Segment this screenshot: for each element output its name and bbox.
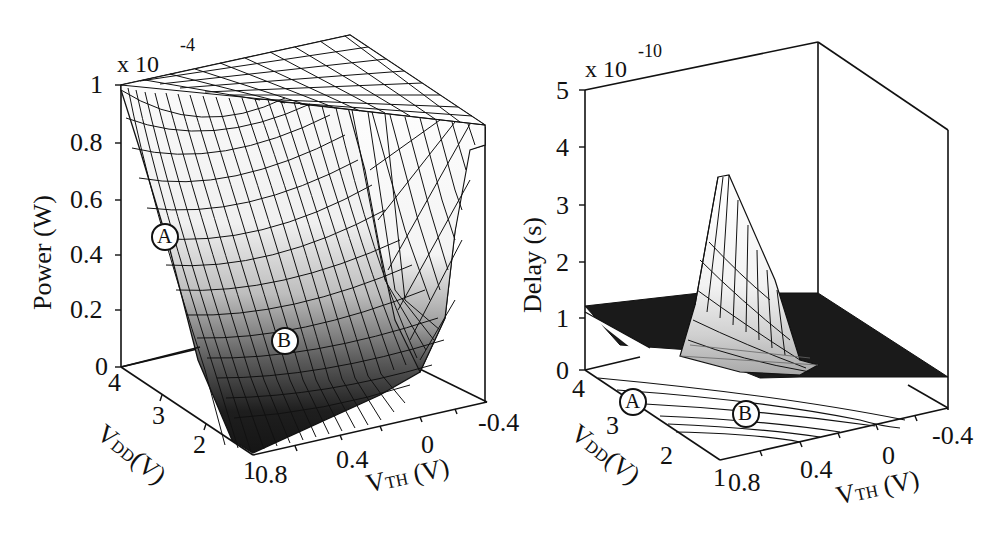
delay-vth-tick-neg0.4: -0.4 xyxy=(932,423,973,449)
delay-z-tick-0: 0 xyxy=(556,358,569,384)
delay-vdd-tick-3: 3 xyxy=(606,413,619,439)
delay-vth-tick-0.8: 0.8 xyxy=(728,470,761,496)
delay-scale-multiplier: x 10 xyxy=(585,57,627,81)
delay-z-ticks xyxy=(579,90,585,370)
delay-scale-exponent: -10 xyxy=(638,42,662,60)
delay-surface-chart: A B x 10 -10 5 4 3 2 1 0 Delay (s) 4 3 2… xyxy=(0,0,1007,536)
delay-z-tick-3: 3 xyxy=(556,193,569,219)
delay-vth-tick-0: 0 xyxy=(882,443,895,469)
delay-z-tick-4: 4 xyxy=(556,135,569,161)
delay-z-tick-1: 1 xyxy=(556,306,569,332)
delay-z-axis-title: Delay (s) xyxy=(520,210,546,320)
delay-z-tick-2: 2 xyxy=(556,250,569,276)
delay-vdd-tick-1: 1 xyxy=(713,465,726,491)
delay-marker-b-label: B xyxy=(738,403,752,424)
delay-z-tick-5: 5 xyxy=(556,78,569,104)
delay-vth-tick-0.4: 0.4 xyxy=(800,457,833,483)
delay-marker-a-label: A xyxy=(625,391,640,412)
delay-surface-plot xyxy=(0,0,1007,536)
delay-vdd-tick-4: 4 xyxy=(572,376,585,402)
delay-vdd-tick-2: 2 xyxy=(660,443,673,469)
